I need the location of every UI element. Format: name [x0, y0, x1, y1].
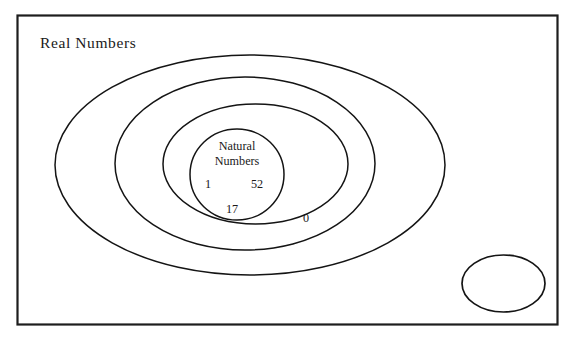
diagram-canvas: Real Numbers Natural Numbers 1 52 17 0	[0, 0, 573, 339]
universe-label: Real Numbers	[40, 34, 136, 51]
element-seventeen: 17	[226, 202, 238, 216]
element-one: 1	[205, 177, 211, 191]
element-fiftytwo: 52	[251, 177, 263, 191]
natural-numbers-label-line1: Natural	[219, 139, 256, 153]
natural-numbers-label-line2: Numbers	[215, 154, 260, 168]
universe-rectangle	[18, 16, 558, 325]
element-zero: 0	[303, 211, 309, 225]
set-diagram: Real Numbers Natural Numbers 1 52 17 0	[0, 0, 573, 339]
empty-ellipse	[462, 255, 545, 312]
